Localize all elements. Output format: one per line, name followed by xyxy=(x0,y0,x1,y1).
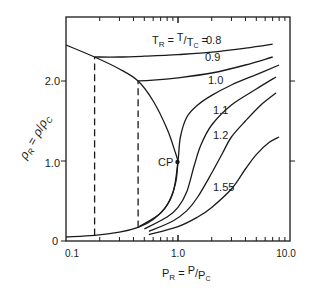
curve-saturation-dome-vapor- xyxy=(66,161,178,237)
curve-saturation-dome-liquid- xyxy=(66,45,178,161)
svg-text:ρR = ρ/ρC: ρR = ρ/ρC xyxy=(16,112,55,164)
x-tick-label-0: 0.1 xyxy=(65,248,79,259)
legend-header: TR = T/TC = xyxy=(152,31,208,49)
curve-label-1.55: 1.55 xyxy=(213,181,234,193)
y-tick-label-1: 1.0 xyxy=(45,157,60,169)
curve-label-1.1: 1.1 xyxy=(213,104,228,116)
critical-point-label: CP xyxy=(158,156,173,168)
y-axis-title: ρR = ρ/ρC xyxy=(16,112,55,164)
curve-labels: 0.80.91.01.11.21.55 xyxy=(205,34,234,193)
curve-0.8 xyxy=(95,44,273,57)
isotherm-curves xyxy=(66,44,279,237)
curve-label-0.8: 0.8 xyxy=(206,34,221,46)
curve-label-0.9: 0.9 xyxy=(205,51,220,63)
critical-point-marker xyxy=(175,160,179,164)
x-tick-label-1: 1.0 xyxy=(171,248,185,259)
curve-1.1 xyxy=(144,77,276,229)
svg-text:PR = P/PC: PR = P/PC xyxy=(162,264,210,282)
y-tick-label-0: 0 xyxy=(52,235,58,247)
svg-text:TR = T/TC =: TR = T/TC = xyxy=(152,31,208,49)
curve-label-1.2: 1.2 xyxy=(213,129,228,141)
y-tick-label-2: 2.0 xyxy=(45,75,60,87)
curve-label-1.0: 1.0 xyxy=(208,74,223,86)
chart-svg: 0.80.91.01.11.21.55 2.0 1.0 0 0.1 1.0 10… xyxy=(0,0,313,293)
x-tick-label-2: 10.0 xyxy=(276,248,296,259)
curve-1.0 xyxy=(139,65,279,227)
x-axis-title: PR = P/PC xyxy=(162,264,210,282)
